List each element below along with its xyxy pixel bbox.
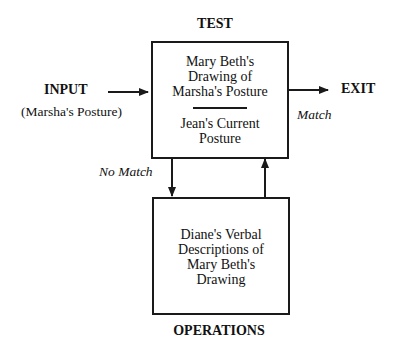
operations-line: Mary Beth's bbox=[154, 257, 288, 272]
test-lower-text: Jean's Current Posture bbox=[153, 116, 287, 146]
operations-line: Drawing bbox=[154, 272, 288, 287]
operations-text: Diane's Verbal Descriptions of Mary Beth… bbox=[154, 227, 288, 287]
operations-line: Diane's Verbal bbox=[154, 227, 288, 242]
test-heading: TEST bbox=[185, 16, 245, 32]
input-label: INPUT bbox=[44, 82, 88, 98]
test-upper-text: Mary Beth's Drawing of Marsha's Posture bbox=[153, 54, 287, 99]
test-upper-line: Marsha's Posture bbox=[153, 84, 287, 99]
operations-box: Diane's Verbal Descriptions of Mary Beth… bbox=[152, 197, 290, 315]
match-label: Match bbox=[297, 107, 332, 123]
test-box: Mary Beth's Drawing of Marsha's Posture … bbox=[151, 41, 289, 159]
no-match-label: No Match bbox=[99, 164, 153, 180]
operations-heading: OPERATIONS bbox=[159, 323, 279, 339]
test-upper-line: Drawing of bbox=[153, 69, 287, 84]
test-lower-line: Jean's Current bbox=[153, 116, 287, 131]
input-sublabel: (Marsha's Posture) bbox=[21, 104, 122, 120]
test-lower-line: Posture bbox=[153, 131, 287, 146]
test-upper-line: Mary Beth's bbox=[153, 54, 287, 69]
test-divider bbox=[193, 107, 247, 109]
operations-line: Descriptions of bbox=[154, 242, 288, 257]
exit-label: EXIT bbox=[341, 81, 375, 97]
